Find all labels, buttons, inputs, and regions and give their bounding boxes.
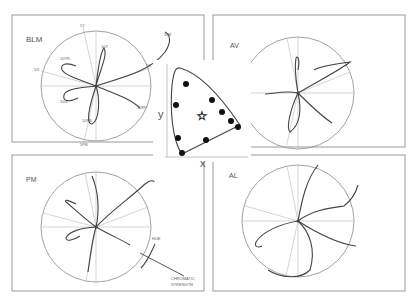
trajectory [298,221,356,246]
point-label: 10PB [82,118,92,123]
chromaticity-chart: ☆ y x [153,60,251,169]
panel-title: AL [229,172,238,179]
color-sample-dot [175,135,181,141]
color-sample-dot [183,81,189,87]
trajectory [268,221,312,277]
panel-title: BLM [26,35,43,44]
color-sample-dot [203,137,209,143]
color-sample-dot [179,150,185,156]
trajectory [96,227,130,245]
x-axis-label: x [200,157,206,169]
axis-label: 5Y [80,23,85,28]
trajectory [96,86,140,108]
white-point-star-icon: ☆ [197,109,208,123]
trajectory [298,62,350,93]
trajectory [298,165,318,221]
origin-marker [95,85,98,88]
point-label: 10YR [60,56,70,61]
trajectory [96,48,105,86]
axis-label: 5PB [80,142,88,147]
color-sample-dot [219,109,225,115]
trajectory [298,93,332,123]
color-sample-dot [235,124,241,130]
chromatic-label: CHROMATIC [171,276,195,281]
panel-pm: PM HUE CHROMATIC STRENGTH [12,155,204,291]
hue-label: HUE [152,236,161,241]
panel-title: PM [26,176,37,183]
panel-title: AV [230,42,239,49]
trajectory [298,185,358,221]
point-label: 10RP [137,105,147,110]
strength-label: STRENGTH [171,282,193,287]
point-label: 10G [60,99,68,104]
origin-marker [95,226,98,229]
trajectory [64,86,96,101]
figure: BLM 5Y 5G 5R 5PB 10Y 10R 10G 10YR 10PB 1… [0,0,414,301]
trajectory [255,221,298,247]
color-sample-dot [173,102,179,108]
origin-marker [297,92,300,95]
chromatic-arrow [140,253,184,276]
origin-marker [297,220,300,223]
y-axis-label: y [158,108,164,120]
color-sample-dot [209,97,215,103]
trajectory [66,227,96,240]
trajectory [96,181,154,227]
trajectory [62,64,96,86]
panel-al: AL [213,155,405,291]
trajectory [92,176,98,227]
color-sample-dot [228,118,234,124]
axis-label: 5G [34,67,39,72]
